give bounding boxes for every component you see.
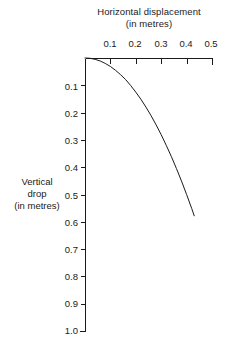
axis-lines xyxy=(86,59,213,332)
y-axis-ticks xyxy=(80,86,86,332)
chart-figure: Horizontal displacement (in metres) Vert… xyxy=(0,0,228,344)
x-axis-ticks xyxy=(111,59,213,65)
trajectory-curve xyxy=(85,58,194,216)
plot-area xyxy=(0,0,228,344)
